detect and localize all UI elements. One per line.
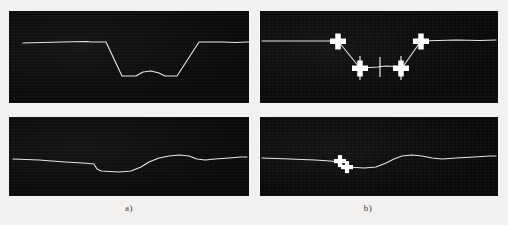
waveform-trace [262, 40, 496, 68]
waveform-trace [262, 155, 496, 168]
breakpoint-marker-3 [393, 61, 409, 77]
signal-panel-bottom-right [260, 117, 498, 196]
waveform-bottom-right [260, 117, 498, 196]
breakpoint-marker-2 [352, 61, 368, 77]
signal-panel-top-right [260, 11, 498, 103]
waveform-top-right [260, 11, 498, 103]
signal-panel-top-left [9, 11, 249, 103]
caption-b: b) [338, 203, 398, 213]
signal-panel-bottom-left [9, 117, 249, 196]
waveform-top-left [9, 11, 249, 103]
waveform-trace [13, 155, 247, 172]
waveform-bottom-left [9, 117, 249, 196]
caption-a: a) [99, 203, 159, 213]
waveform-trace [23, 42, 249, 77]
figure-container: a) b) [0, 0, 508, 225]
breakpoint-marker-4 [413, 34, 429, 50]
